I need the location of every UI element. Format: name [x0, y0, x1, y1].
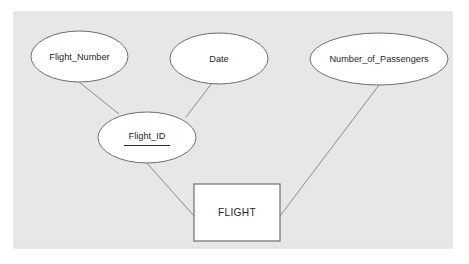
- er-diagram-root: Flight_Number Date Number_of_Passengers …: [0, 0, 469, 264]
- attribute-label-flight-id: Flight_ID: [129, 131, 166, 141]
- attribute-node-date[interactable]: Date: [170, 33, 268, 84]
- entity-label-flight: FLIGHT: [218, 207, 256, 218]
- attribute-node-flight-id[interactable]: Flight_ID: [98, 112, 196, 163]
- attribute-label-number-of-passengers: Number_of_Passengers: [329, 54, 428, 64]
- entity-node-flight[interactable]: FLIGHT: [194, 184, 280, 241]
- attribute-label-flight-number: Flight_Number: [49, 52, 109, 62]
- attribute-node-flight-number[interactable]: Flight_Number: [31, 31, 128, 82]
- er-diagram-canvas: Flight_Number Date Number_of_Passengers …: [0, 0, 469, 264]
- attribute-label-date: Date: [209, 54, 228, 64]
- attribute-node-number-of-passengers[interactable]: Number_of_Passengers: [310, 33, 448, 85]
